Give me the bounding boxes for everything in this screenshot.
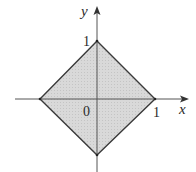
vertex-bottom <box>96 154 99 157</box>
vertex-top <box>96 40 99 43</box>
coordinate-diagram: y x 1 1 0 <box>0 0 196 172</box>
x-tick-label: 1 <box>153 105 160 120</box>
x-axis-label: x <box>178 101 186 117</box>
y-tick-label: 1 <box>83 34 90 49</box>
y-axis-label: y <box>79 3 88 19</box>
vertex-right <box>154 98 157 101</box>
origin-label: 0 <box>83 104 90 119</box>
vertex-left <box>39 98 42 101</box>
